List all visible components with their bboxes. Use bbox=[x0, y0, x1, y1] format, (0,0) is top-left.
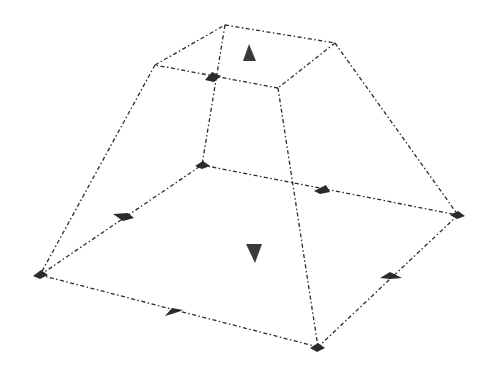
edge-handle-top-front[interactable] bbox=[205, 72, 221, 82]
edge-handle-bottom-back[interactable] bbox=[314, 185, 330, 194]
frustum-diagram bbox=[0, 0, 486, 369]
corner-handle-right[interactable] bbox=[450, 211, 465, 219]
edge-handle-bottom-right[interactable] bbox=[380, 272, 402, 279]
bottom-face bbox=[40, 165, 458, 347]
edge-handles[interactable] bbox=[113, 72, 402, 316]
bottom-edge-back-right bbox=[202, 165, 458, 215]
top-edge-right-front bbox=[278, 43, 335, 88]
edge-handle-bottom-left[interactable] bbox=[113, 213, 134, 221]
side-edge-right bbox=[335, 43, 458, 215]
bottom-edge-right-front bbox=[318, 215, 458, 347]
bottom-edge-left-back bbox=[40, 165, 202, 275]
side-edges bbox=[40, 25, 458, 347]
edge-handle-bottom-front[interactable] bbox=[165, 308, 183, 316]
corner-handle-front[interactable] bbox=[310, 343, 325, 352]
arrow-up-icon[interactable] bbox=[243, 44, 256, 61]
top-edge-left-back bbox=[155, 25, 225, 65]
arrow-down-icon[interactable] bbox=[246, 244, 262, 263]
corner-handles[interactable] bbox=[33, 161, 465, 352]
side-edge-front bbox=[278, 88, 318, 347]
top-edge-back-right bbox=[225, 25, 335, 43]
side-edge-back bbox=[202, 25, 225, 165]
side-edge-left bbox=[40, 65, 155, 275]
